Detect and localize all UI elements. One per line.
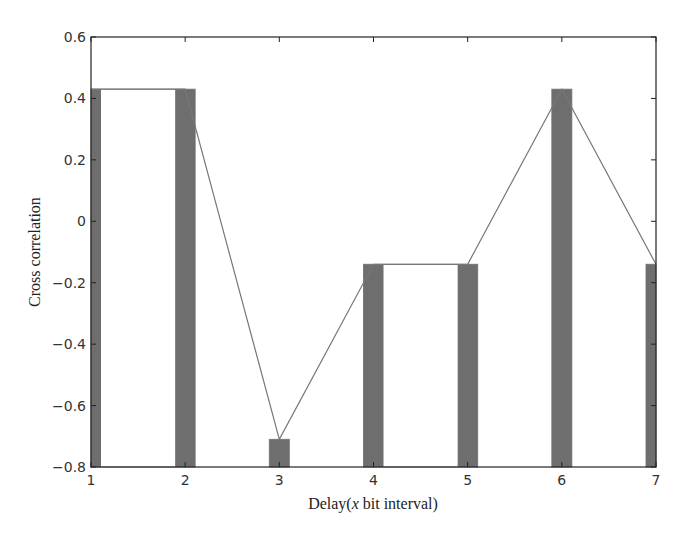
bar <box>552 89 572 467</box>
y-tick-label: 0.4 <box>64 90 86 106</box>
y-tick-label: −0.2 <box>52 275 86 291</box>
bar <box>458 264 478 467</box>
bar <box>175 89 195 467</box>
y-tick-label: −0.6 <box>52 398 86 414</box>
bar-series <box>91 89 656 467</box>
x-tick-label: 3 <box>275 472 284 488</box>
y-tick-label: −0.8 <box>52 459 86 475</box>
x-axis-title: Delay(x bit interval) <box>308 495 438 513</box>
bar <box>646 264 656 467</box>
bar <box>364 264 384 467</box>
x-tick-label: 4 <box>369 472 378 488</box>
x-tick-label: 6 <box>557 472 566 488</box>
cross-correlation-chart: 1234567 0.60.40.20−0.2−0.4−0.6−0.8 Delay… <box>0 0 684 542</box>
y-tick-label: 0.6 <box>64 29 86 45</box>
bar <box>91 89 101 467</box>
x-tick-label: 1 <box>87 472 96 488</box>
x-tick-label: 2 <box>181 472 190 488</box>
y-tick-label: −0.4 <box>52 336 86 352</box>
y-tick-label: 0 <box>77 213 86 229</box>
y-tick-label: 0.2 <box>64 152 86 168</box>
y-axis-title: Cross correlation <box>26 197 43 307</box>
x-tick-label: 7 <box>652 472 661 488</box>
x-tick-label: 5 <box>463 472 472 488</box>
